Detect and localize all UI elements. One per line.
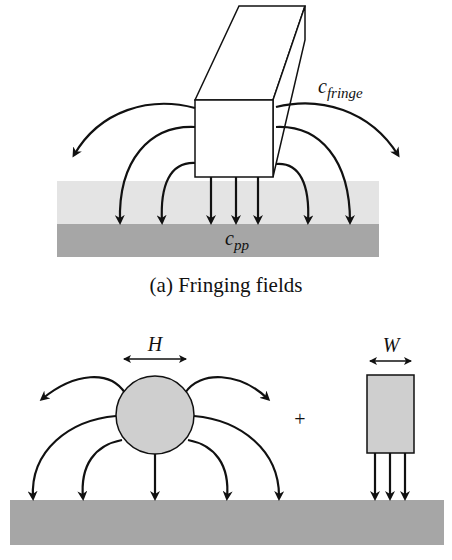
label-W: W xyxy=(383,334,402,356)
cyl-field-left-outer xyxy=(33,416,116,498)
label-H: H xyxy=(147,333,164,355)
panel-a: cfringe cpp (a) Fringing fields xyxy=(57,6,398,297)
caption-a: (a) Fringing fields xyxy=(150,273,303,297)
cyl-field-top-right xyxy=(185,377,268,399)
cyl-field-right-outer xyxy=(194,416,279,498)
ground-plane-b xyxy=(10,500,444,545)
cylinder-wire xyxy=(116,376,194,454)
cyl-field-top-left xyxy=(42,377,125,399)
field-line-left-outer xyxy=(74,104,195,155)
ground-plane xyxy=(57,224,379,257)
wire-box xyxy=(195,6,305,177)
parallel-plate xyxy=(367,375,414,453)
cyl-field-left-inner xyxy=(83,440,122,498)
dielectric-layer xyxy=(57,181,379,224)
panel-b: H + W xyxy=(10,333,444,545)
fringing-field-diagram: cfringe cpp (a) Fringing fields H + W xyxy=(0,0,452,560)
plus-sign: + xyxy=(294,408,305,430)
label-c-fringe: cfringe xyxy=(318,75,363,101)
cyl-field-right-inner xyxy=(188,440,227,498)
